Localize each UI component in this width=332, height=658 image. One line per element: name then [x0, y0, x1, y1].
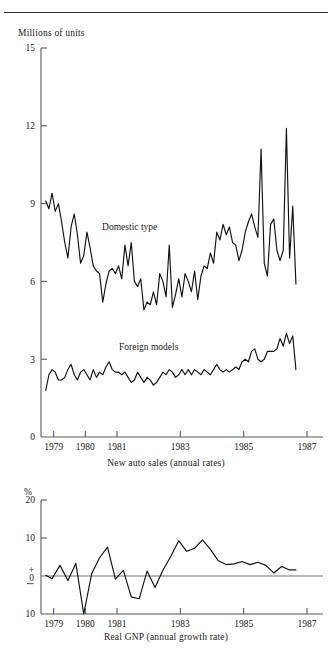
real-gnp-caption: Real GNP (annual growth rate) [0, 632, 332, 642]
real-gnp-y-tick-label: 20 [26, 495, 36, 505]
real-gnp-x-tick-label: 1987 [298, 619, 317, 629]
real-gnp-chart: 2010+010 197919801981198319851987 [0, 0, 332, 658]
real-gnp-x-ticks: 197919801981198319851987 [44, 608, 317, 629]
real-gnp-zero-label: 0 [29, 573, 34, 583]
real-gnp-y-tick-label: 10 [26, 533, 36, 543]
real-gnp-x-tick-label: 1980 [76, 619, 95, 629]
real-gnp-y-tick-label: 10 [26, 609, 36, 619]
real-gnp-growth-line [46, 540, 296, 614]
figure-page: Millions of units 03691215 1979198019811… [0, 0, 332, 658]
real-gnp-x-tick-label: 1983 [171, 619, 190, 629]
real-gnp-x-tick-label: 1979 [44, 619, 63, 629]
real-gnp-x-tick-label: 1981 [108, 619, 127, 629]
real-gnp-y-ticks: 2010+010 [26, 495, 48, 619]
real-gnp-x-tick-label: 1985 [234, 619, 253, 629]
